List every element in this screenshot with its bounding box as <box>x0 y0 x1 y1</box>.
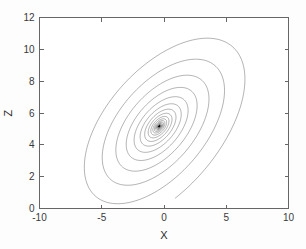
x-tick-label: 0 <box>161 212 167 223</box>
y-tick-label: 2 <box>29 171 35 182</box>
y-tick-label: 4 <box>29 139 35 150</box>
y-tick-label: 6 <box>29 108 35 119</box>
y-tick-label: 12 <box>23 12 35 23</box>
y-tick-label: 0 <box>29 203 35 214</box>
y-tick-label: 10 <box>23 44 35 55</box>
x-tick-label: 10 <box>283 212 295 223</box>
attractor-plot: -10-50510024681012 X Z <box>0 0 306 249</box>
y-axis-label: Z <box>2 109 14 116</box>
x-tick-label: -5 <box>97 212 106 223</box>
y-tick-label: 8 <box>29 76 35 87</box>
x-tick-label: -10 <box>32 212 47 223</box>
x-tick-label: 5 <box>223 212 229 223</box>
x-axis-label: X <box>160 229 168 241</box>
axes-background <box>40 18 289 209</box>
figure-canvas: -10-50510024681012 X Z <box>0 0 306 249</box>
